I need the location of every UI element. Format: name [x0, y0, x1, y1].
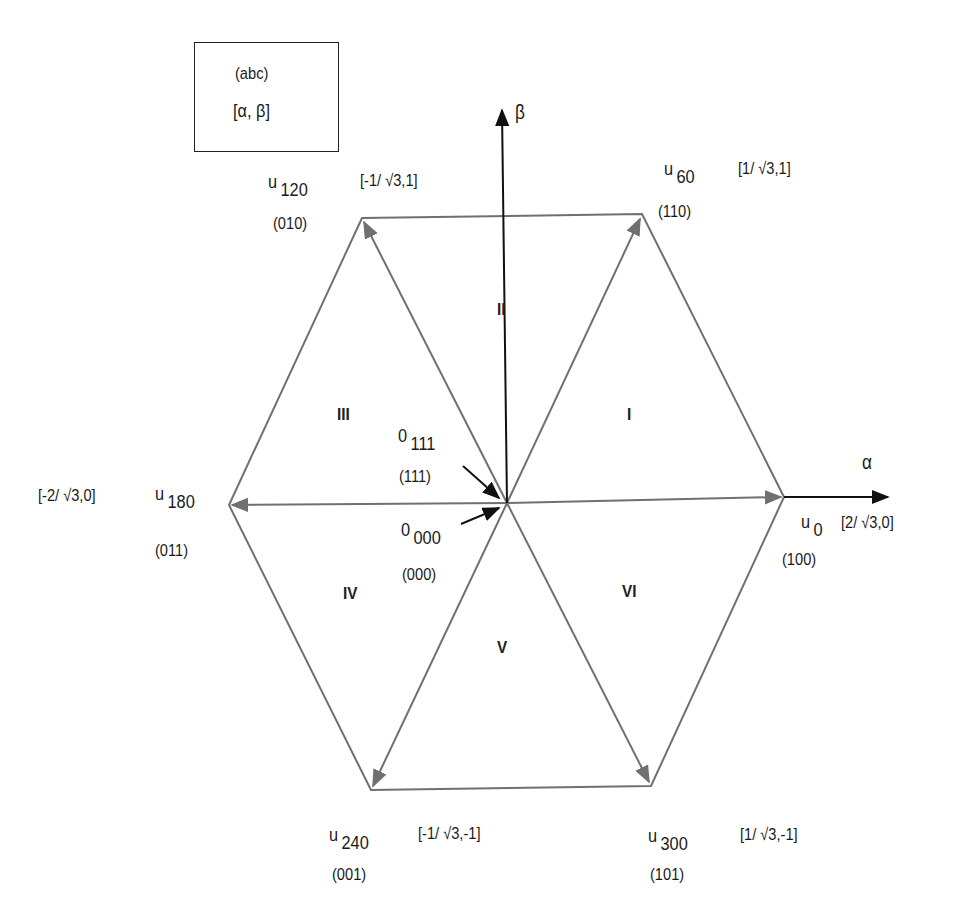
vector-u60-label: u60 [664, 159, 695, 178]
vector-symbol: u [268, 171, 277, 192]
sector-label-III: III [337, 405, 350, 425]
zero-vector-111-state: (111) [399, 468, 431, 485]
vector-u180-label: u180 [155, 484, 195, 503]
vector-symbol: u [664, 158, 673, 179]
vector-subscript: 0 [814, 519, 823, 540]
vector-u120-label: u120 [268, 172, 308, 191]
vector-subscript: 300 [661, 833, 688, 854]
vector-u240-state: (001) [332, 866, 366, 883]
legend-alpha-beta: [α, β] [233, 101, 270, 120]
vector-subscript: 60 [677, 166, 695, 187]
alpha-axis-label: α [862, 452, 872, 472]
zero-vector-111-label: 0111 [398, 426, 435, 445]
vector-u0-coord: [2/ √3,0] [841, 514, 894, 531]
zero-vector-000-state: (000) [402, 566, 436, 583]
vector-symbol: 0 [401, 519, 410, 540]
vector-u0-label: u0 [801, 512, 823, 531]
vector-symbol: u [648, 825, 657, 846]
vector-subscript: 240 [342, 832, 369, 853]
vector-subscript: 120 [281, 179, 308, 200]
vector-subscript: 000 [414, 527, 441, 548]
sector-label-VI: VI [622, 582, 636, 602]
vector-u180-coord: [-2/ √3,0] [38, 487, 96, 504]
vector-u240-coord: [-1/ √3,-1] [418, 825, 480, 842]
vector-u60-coord: [1/ √3,1] [738, 160, 791, 177]
sector-label-II: II [497, 300, 506, 320]
vector-u300-label: u300 [648, 826, 688, 845]
vector-symbol: u [155, 483, 164, 504]
vector-u180-state: (011) [155, 542, 188, 559]
vector-u60-state: (110) [658, 203, 691, 220]
vector-symbol: u [801, 511, 810, 532]
vector-symbol: 0 [398, 425, 407, 446]
vector-u300-state: (101) [650, 866, 684, 883]
vector-u0-state: (100) [782, 551, 816, 568]
vector-u240-label: u240 [329, 825, 369, 844]
sector-label-V: V [497, 638, 507, 658]
zero-vector-000-label: 0000 [401, 520, 441, 539]
space-vector-diagram [0, 0, 959, 912]
vector-subscript: 111 [411, 433, 436, 454]
legend-abc: (abc) [235, 65, 268, 82]
sector-label-I: I [627, 405, 631, 425]
sector-label-IV: IV [343, 584, 357, 604]
vector-u120-state: (010) [273, 215, 307, 232]
vector-subscript: 180 [168, 491, 195, 512]
beta-axis-label: β [515, 102, 525, 122]
vector-u300-coord: [1/ √3,-1] [740, 826, 798, 843]
legend-box: (abc) [α, β] [194, 42, 339, 152]
vector-symbol: u [329, 824, 338, 845]
zero-111-pointer [463, 466, 499, 498]
zero-000-pointer [461, 508, 499, 524]
vector-u120-coord: [-1/ √3,1] [360, 172, 418, 189]
